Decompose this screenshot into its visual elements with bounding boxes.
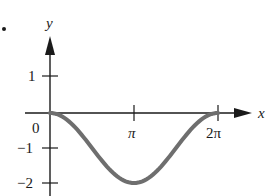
y-tick-label-neg2: −2: [17, 175, 33, 191]
x-tick-label-pi: π: [128, 125, 136, 141]
y-axis-label: y: [44, 15, 53, 31]
chart: y x 1 0 −1 −2 π 2π: [0, 0, 267, 196]
y-tick-label-1: 1: [28, 68, 36, 84]
x-axis-label: x: [257, 105, 265, 121]
origin-label: 0: [32, 120, 40, 136]
y-tick-label-neg1: −1: [17, 140, 33, 156]
bullet-dot: [2, 27, 6, 31]
curve-cos-minus-one: [50, 113, 218, 183]
y-axis-arrow-icon: [45, 36, 55, 55]
x-axis-arrow-icon: [234, 108, 252, 118]
x-tick-label-2pi: 2π: [206, 125, 222, 141]
